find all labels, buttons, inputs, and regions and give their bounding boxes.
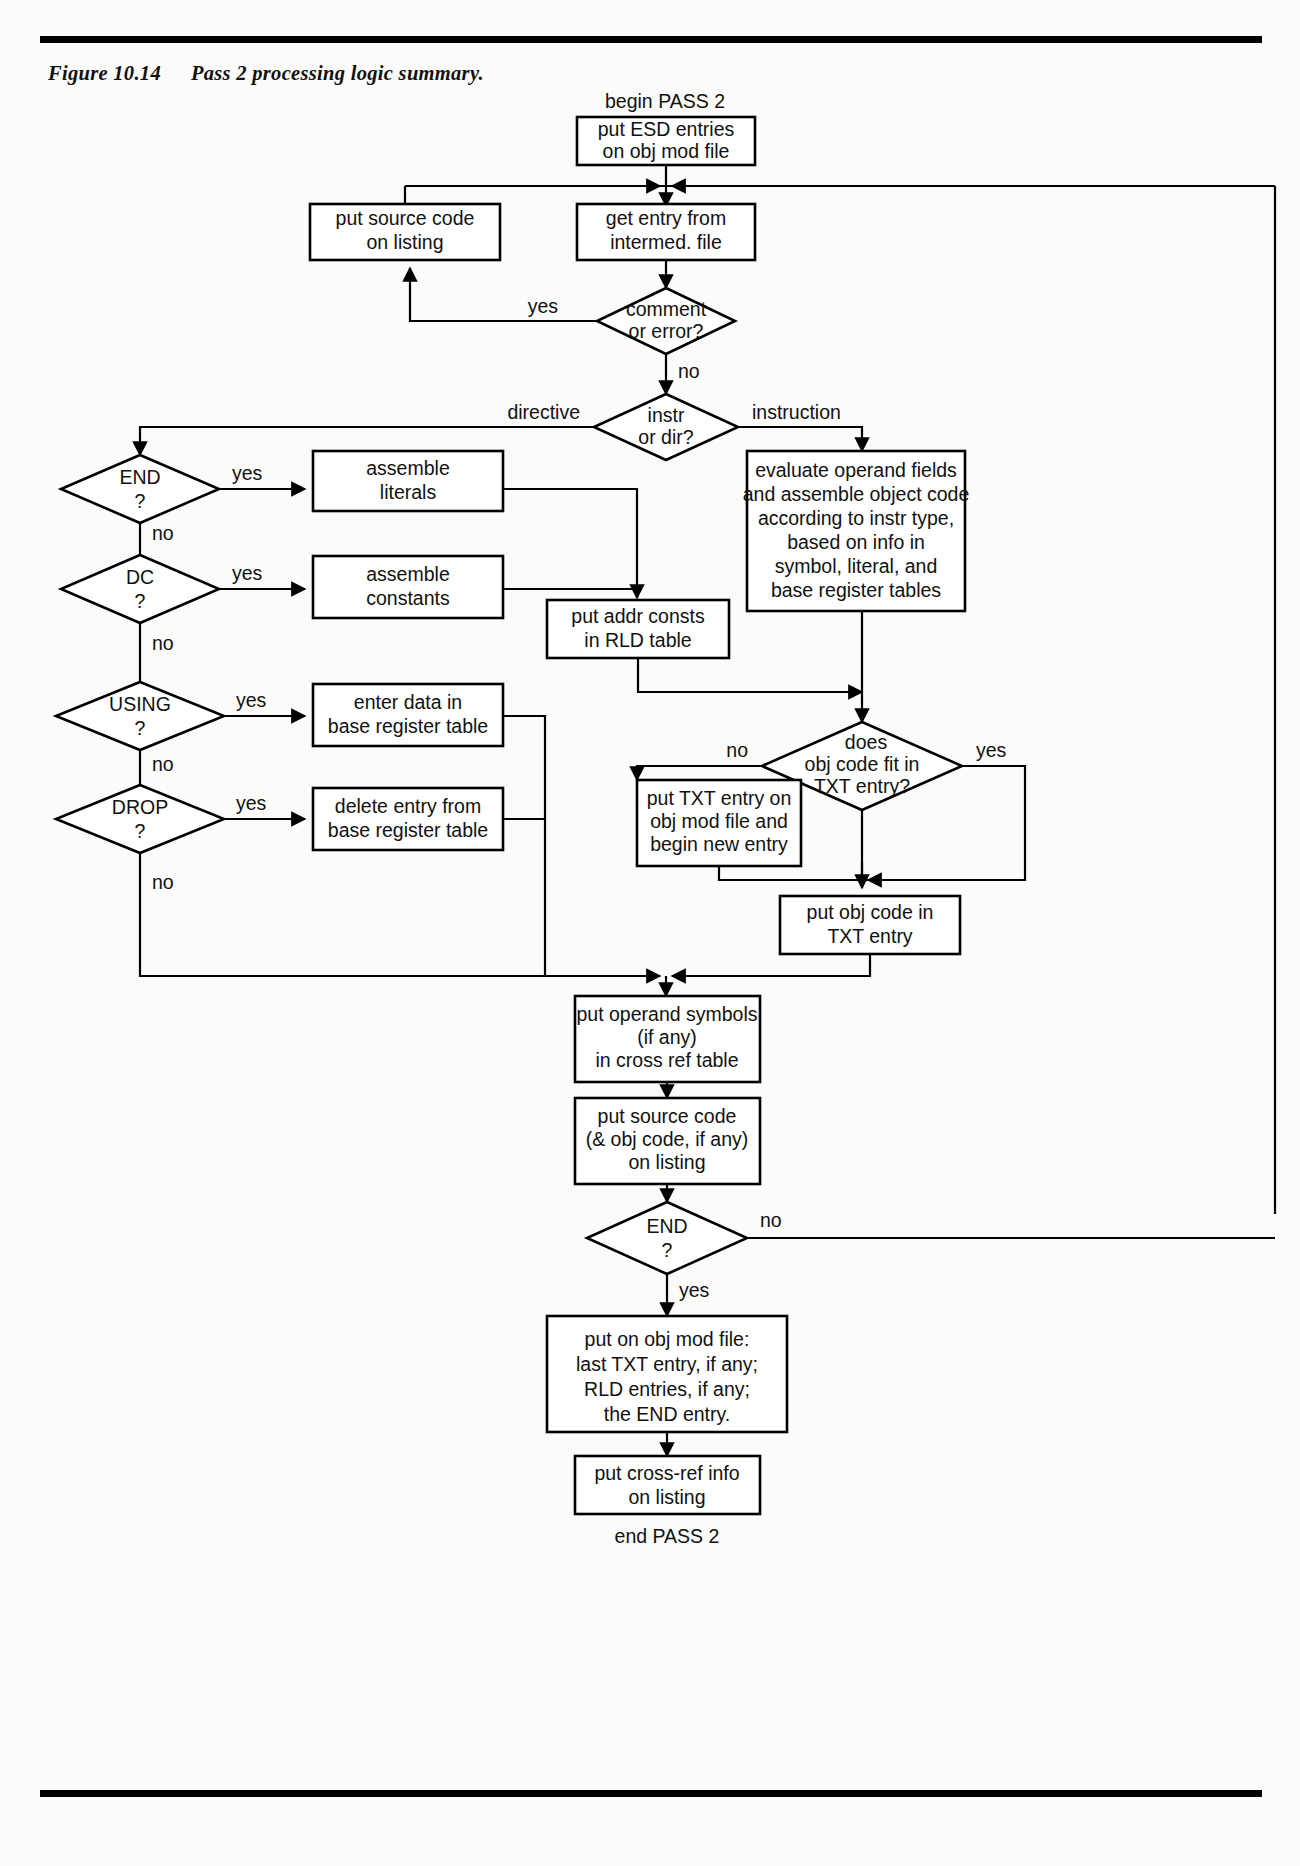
node-asmcon-line-1: constants bbox=[366, 587, 450, 609]
node-dcq-line-0: DC bbox=[126, 566, 154, 588]
node-put-esd-line-1: on obj mod file bbox=[603, 140, 730, 162]
node-fit-line-1: obj code fit in bbox=[805, 753, 920, 775]
node-end-q2[interactable] bbox=[587, 1202, 747, 1274]
edge-putobj-out bbox=[672, 954, 870, 976]
edge-label-fit-yes: yes bbox=[976, 739, 1007, 761]
edge-addrconsts-out bbox=[638, 658, 862, 692]
node-endq1-line-0: END bbox=[119, 466, 160, 488]
node-putobjmod-line-2: RLD entries, if any; bbox=[584, 1378, 750, 1400]
node-putobj-line-0: put obj code in bbox=[807, 901, 934, 923]
flowchart: begin PASS 2 put ESD entries on obj mod … bbox=[0, 0, 1300, 1866]
edge-label-using-yes: yes bbox=[236, 689, 267, 711]
node-instrdir-line-0: instr bbox=[648, 404, 685, 426]
edge-enterdata-out bbox=[503, 716, 545, 976]
node-operandsym-line-1: (if any) bbox=[637, 1026, 697, 1048]
edge-label-end2-yes: yes bbox=[679, 1279, 710, 1301]
edge-comment-yes bbox=[410, 268, 597, 321]
edge-drop-no bbox=[140, 853, 660, 976]
node-endq1-line-1: ? bbox=[135, 490, 146, 512]
node-asmlit-line-0: assemble bbox=[366, 457, 449, 479]
node-get-entry-line-1: intermed. file bbox=[610, 231, 722, 253]
node-putobj-line-1: TXT entry bbox=[827, 925, 912, 947]
edge-literals-out bbox=[503, 489, 637, 598]
node-addrconsts-line-0: put addr consts bbox=[571, 605, 705, 627]
node-usingq-line-1: ? bbox=[135, 717, 146, 739]
node-putobjmod-line-0: put on obj mod file: bbox=[585, 1328, 750, 1350]
node-putsrcobj-line-2: on listing bbox=[629, 1151, 706, 1173]
node-comment-line-0: comment bbox=[626, 298, 707, 320]
node-asmcon-line-0: assemble bbox=[366, 563, 449, 585]
node-enterdata-line-1: base register table bbox=[328, 715, 488, 737]
edge-instruction bbox=[738, 427, 862, 451]
node-eval-line-1: and assemble object code bbox=[743, 483, 970, 505]
node-eval-line-0: evaluate operand fields bbox=[755, 459, 957, 481]
edge-label-end2-no: no bbox=[760, 1209, 782, 1231]
node-operandsym-line-0: put operand symbols bbox=[576, 1003, 757, 1025]
node-operandsym-line-2: in cross ref table bbox=[595, 1049, 738, 1071]
node-dropq-line-0: DROP bbox=[112, 796, 168, 818]
node-eval-line-4: symbol, literal, and bbox=[775, 555, 938, 577]
node-eval-line-2: according to instr type, bbox=[758, 507, 954, 529]
node-crossref-line-0: put cross-ref info bbox=[594, 1462, 739, 1484]
node-puttxt-line-1: obj mod file and bbox=[650, 810, 788, 832]
node-put-esd-line-0: put ESD entries bbox=[598, 118, 735, 140]
node-instrdir-line-1: or dir? bbox=[638, 426, 693, 448]
edge-label-using-no: no bbox=[152, 753, 174, 775]
edge-label-end1-yes: yes bbox=[232, 462, 263, 484]
edge-puttxt-out bbox=[719, 866, 862, 880]
node-putobjmod-line-3: the END entry. bbox=[604, 1403, 730, 1425]
node-put-source-listing-line-0: put source code bbox=[336, 207, 475, 229]
node-puttxt-line-2: begin new entry bbox=[650, 833, 788, 855]
node-usingq-line-0: USING bbox=[109, 693, 171, 715]
node-dropq-line-1: ? bbox=[135, 820, 146, 842]
node-fit-line-2: TXT entry? bbox=[814, 775, 910, 797]
node-eval-line-3: based on info in bbox=[787, 531, 925, 553]
terminal-begin: begin PASS 2 bbox=[605, 90, 725, 112]
figure-page: Figure 10.14Pass 2 processing logic summ… bbox=[0, 0, 1300, 1866]
node-putsrcobj-line-0: put source code bbox=[598, 1105, 737, 1127]
node-enterdata-line-0: enter data in bbox=[354, 691, 462, 713]
node-putsrcobj-line-1: (& obj code, if any) bbox=[586, 1128, 749, 1150]
node-eval-line-5: base register tables bbox=[771, 579, 941, 601]
node-fit-line-0: does bbox=[845, 731, 888, 753]
node-putobjmod-line-1: last TXT entry, if any; bbox=[576, 1353, 758, 1375]
node-endq2-line-0: END bbox=[646, 1215, 687, 1237]
node-get-entry-line-0: get entry from bbox=[606, 207, 726, 229]
node-endq2-line-1: ? bbox=[662, 1239, 673, 1261]
edge-label-comment-no: no bbox=[678, 360, 700, 382]
edge-label-drop-yes: yes bbox=[236, 792, 267, 814]
edge-label-comment-yes: yes bbox=[528, 295, 559, 317]
node-crossref-line-1: on listing bbox=[629, 1486, 706, 1508]
edge-label-fit-no: no bbox=[726, 739, 748, 761]
edge-label-directive: directive bbox=[507, 401, 580, 423]
edge-fit-no bbox=[637, 766, 762, 780]
node-dcq-line-1: ? bbox=[135, 590, 146, 612]
node-asmlit-line-1: literals bbox=[380, 481, 437, 503]
edge-label-dc-yes: yes bbox=[232, 562, 263, 584]
node-delentry-line-0: delete entry from bbox=[335, 795, 481, 817]
node-comment-line-1: or error? bbox=[629, 320, 704, 342]
edge-label-instruction: instruction bbox=[752, 401, 841, 423]
edge-label-end1-no: no bbox=[152, 522, 174, 544]
node-addrconsts-line-1: in RLD table bbox=[584, 629, 691, 651]
terminal-end: end PASS 2 bbox=[615, 1525, 720, 1547]
edge-label-drop-no: no bbox=[152, 871, 174, 893]
edge-label-dc-no: no bbox=[152, 632, 174, 654]
node-put-source-listing-line-1: on listing bbox=[367, 231, 444, 253]
node-puttxt-line-0: put TXT entry on bbox=[647, 787, 792, 809]
node-delentry-line-1: base register table bbox=[328, 819, 488, 841]
